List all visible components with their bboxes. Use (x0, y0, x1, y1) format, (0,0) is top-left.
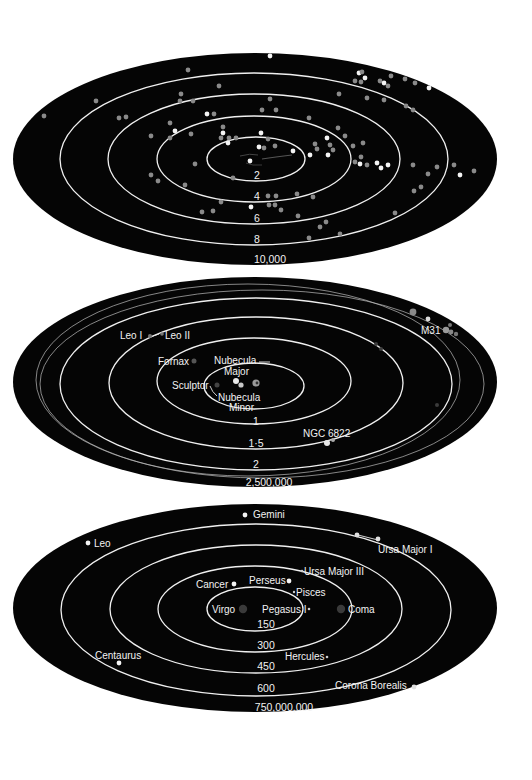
ring-label-300: 300 (257, 639, 275, 651)
star-dot (359, 80, 364, 85)
ring-label-4: 4 (254, 190, 260, 202)
cluster-ursa-major-i (376, 537, 381, 542)
star-dot (273, 144, 278, 149)
star-dot (279, 208, 284, 213)
star-dot (379, 166, 384, 171)
star-dot (365, 163, 370, 168)
diagram-galaxy-clusters: Gemini Leo Ursa Major I Ursa Major III C… (13, 504, 497, 713)
star-dot (249, 205, 254, 210)
star-dot (458, 173, 463, 178)
star-dot (178, 99, 183, 104)
star-dot (191, 99, 196, 104)
outer-scale-label: 10,000 (254, 253, 286, 265)
star-dot (337, 92, 342, 97)
star-dot (365, 96, 370, 101)
star-dot (360, 70, 365, 75)
star-dot (325, 136, 330, 141)
galaxy-ngc-6822 (324, 440, 330, 446)
star-dot (94, 99, 99, 104)
star-dot (343, 134, 348, 139)
star-dot (411, 163, 416, 168)
star-dot (219, 200, 224, 205)
label-pisces: Pisces (296, 587, 325, 598)
galaxy-sculptor (215, 383, 220, 388)
star-dot (266, 194, 271, 199)
star-dot (324, 220, 329, 225)
cluster-pegasus-i (308, 608, 311, 611)
label-ursa-major-iii: Ursa Major III (304, 566, 364, 577)
star-dot (205, 112, 210, 117)
star-dot (361, 141, 366, 146)
star-dot (326, 153, 331, 158)
ring-label-8: 8 (254, 233, 260, 245)
label-gemini: Gemini (253, 509, 285, 520)
ring-label-6: 6 (254, 212, 260, 224)
star-dot (274, 194, 279, 199)
star-dot (311, 195, 316, 200)
star-dot (262, 146, 267, 151)
star-dot (378, 79, 383, 84)
star-dot (211, 209, 216, 214)
star-dot (168, 121, 173, 126)
star-dot (318, 225, 323, 230)
star-dot (168, 136, 173, 141)
label-ursa-major-i: Ursa Major I (378, 544, 432, 555)
star-dot (260, 108, 265, 113)
ring-label-150: 150 (257, 618, 275, 630)
ring-label-600: 600 (257, 682, 275, 694)
star-dot (173, 129, 178, 134)
star-dot (307, 116, 312, 121)
star-dot (358, 162, 363, 167)
star-dot (295, 192, 300, 197)
galaxy-leo-ii (160, 332, 164, 336)
label-virgo: Virgo (212, 604, 236, 615)
star-dot (183, 183, 188, 188)
galaxy-nubecula-minor (252, 379, 259, 386)
star-dot (227, 136, 232, 141)
label-m31: M31 (421, 325, 441, 336)
star-dot (359, 155, 364, 160)
star-dot (363, 76, 368, 81)
star-dot (308, 153, 313, 158)
cluster-coma (337, 605, 345, 613)
star-dot (117, 116, 122, 121)
galaxy-fornax (192, 359, 197, 364)
star-dot (234, 136, 239, 141)
star-dot (328, 143, 333, 148)
star-dot (427, 86, 432, 91)
star-dot (315, 147, 320, 152)
ring-label-450: 450 (257, 660, 275, 672)
star-dot (291, 149, 296, 154)
star-dot (149, 173, 154, 178)
star-dot (375, 161, 380, 166)
star-dot (124, 115, 129, 120)
cluster-hercules (326, 656, 329, 659)
label-ngc-6822: NGC 6822 (303, 428, 351, 439)
outer-scale-label: 750,000,000 (255, 701, 314, 713)
ring-label-1: 1 (253, 415, 259, 427)
label-leo-i: Leo I (120, 330, 142, 341)
cluster-cancer (232, 582, 237, 587)
star-dot (419, 185, 424, 190)
star-dot (217, 84, 222, 89)
label-fornax: Fornax (158, 356, 189, 367)
star-dot (389, 74, 394, 79)
star-dot (403, 77, 408, 82)
star-dot (221, 131, 226, 136)
star-dot (221, 125, 226, 130)
star-dot (435, 165, 440, 170)
cluster-leo (86, 541, 91, 546)
label-leo: Leo (94, 538, 111, 549)
star-dot (186, 68, 191, 73)
galaxy-dim (435, 403, 439, 407)
star-dot (296, 214, 301, 219)
cluster-perseus (287, 579, 292, 584)
star-dot (231, 176, 236, 181)
star-dot (179, 92, 184, 97)
star-dot (404, 104, 409, 109)
star-dot (226, 141, 231, 146)
label-nubecula-major-2: Major (224, 366, 250, 377)
label-coma: Coma (348, 604, 375, 615)
star-dot (413, 81, 418, 86)
cluster-pisces (293, 591, 295, 593)
